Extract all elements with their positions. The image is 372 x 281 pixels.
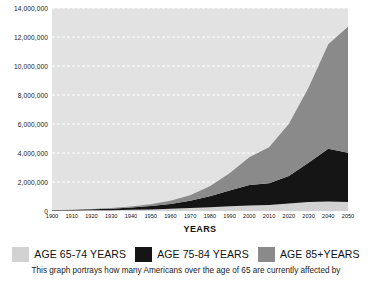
y-axis-tick-labels: 02,000,0004,000,0006,000,0008,000,00010,… <box>0 0 48 219</box>
x-axis-tick-label: 2010 <box>263 213 275 219</box>
x-axis-tick-label: 2000 <box>243 213 255 219</box>
x-axis-tick-label: 1990 <box>223 213 235 219</box>
area-series-group <box>52 27 348 211</box>
chart-caption: This graph portrays how many Americans o… <box>0 266 372 275</box>
legend-item: AGE 75-84 YEARS <box>135 247 249 262</box>
y-axis-tick-label: 8,000,000 <box>0 92 48 99</box>
x-axis-title: YEARS <box>52 224 348 234</box>
chart-figure: 02,000,0004,000,0006,000,0008,000,00010,… <box>0 0 372 281</box>
chart-legend: AGE 65-74 YEARSAGE 75-84 YEARSAGE 85+YEA… <box>0 243 372 265</box>
x-axis-tick-label: 2050 <box>342 213 354 219</box>
y-axis-tick-label: 4,000,000 <box>0 150 48 157</box>
x-axis-tick-label: 2030 <box>302 213 314 219</box>
legend-label: AGE 75-84 YEARS <box>157 248 249 260</box>
x-axis-tick-label: 1910 <box>65 213 77 219</box>
x-axis-tick-label: 1900 <box>46 213 58 219</box>
x-axis-tick-label: 1980 <box>204 213 216 219</box>
legend-swatch-icon <box>258 247 275 262</box>
x-axis-tick-label: 1950 <box>144 213 156 219</box>
y-axis-tick-label: 0 <box>0 208 48 215</box>
x-axis-tick-label: 2020 <box>283 213 295 219</box>
stacked-area-plot <box>52 8 348 211</box>
x-axis-tick-label: 2040 <box>322 213 334 219</box>
x-axis-tick-label: 1960 <box>164 213 176 219</box>
y-axis-tick-label: 12,000,000 <box>0 34 48 41</box>
y-axis-tick-label: 14,000,000 <box>0 5 48 12</box>
x-axis-tick-label: 1930 <box>105 213 117 219</box>
x-axis-tick-label: 1920 <box>85 213 97 219</box>
y-axis-tick-label: 10,000,000 <box>0 63 48 70</box>
legend-label: AGE 65-74 YEARS <box>34 248 126 260</box>
legend-swatch-icon <box>12 247 29 262</box>
y-axis-tick-label: 2,000,000 <box>0 179 48 186</box>
plot-area <box>52 8 348 211</box>
legend-swatch-icon <box>135 247 152 262</box>
legend-label: AGE 85+YEARS <box>280 248 360 260</box>
plot-wrapper: 02,000,0004,000,0006,000,0008,000,00010,… <box>0 0 372 238</box>
x-axis-tick-label: 1940 <box>125 213 137 219</box>
x-axis-tick-label: 1970 <box>184 213 196 219</box>
y-axis-tick-label: 6,000,000 <box>0 121 48 128</box>
legend-item: AGE 65-74 YEARS <box>12 247 126 262</box>
legend-item: AGE 85+YEARS <box>258 247 360 262</box>
